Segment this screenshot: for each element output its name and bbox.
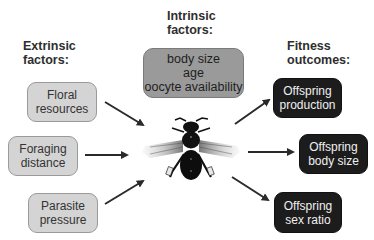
arrow-bee-to-production [235,100,269,124]
arrow-parasite-to-bee [105,181,143,204]
arrow-bee-to-sex-ratio [232,177,268,200]
bee-icon [142,118,240,180]
arrow-floral-to-bee [105,102,143,125]
diagram-graphics [0,0,374,240]
